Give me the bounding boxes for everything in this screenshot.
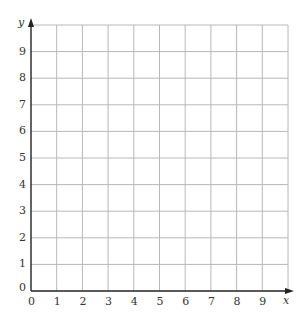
y-tick-label: 8 (19, 72, 26, 83)
y-tick-label: 7 (19, 99, 26, 110)
x-tick-label: 0 (28, 296, 35, 307)
y-tick-label: 1 (19, 258, 26, 269)
y-tick-label: 6 (19, 125, 26, 136)
x-tick-label: 2 (79, 296, 86, 307)
x-tick-label: 9 (259, 296, 266, 307)
y-tick-label: 0 (19, 282, 26, 293)
x-tick-label: 3 (105, 296, 112, 307)
x-axis-label: x (283, 295, 289, 306)
x-tick-label: 7 (208, 296, 215, 307)
y-axis-arrow-icon (28, 18, 34, 27)
y-tick-label: 4 (19, 179, 26, 190)
coordinate-grid (0, 0, 302, 324)
y-axis-label: y (18, 17, 24, 28)
x-tick-label: 1 (54, 296, 61, 307)
y-tick-label: 2 (19, 232, 26, 243)
x-tick-label: 5 (157, 296, 164, 307)
x-tick-label: 4 (131, 296, 138, 307)
y-tick-label: 9 (19, 46, 26, 57)
x-tick-label: 8 (234, 296, 241, 307)
y-tick-label: 3 (19, 205, 26, 216)
x-tick-label: 6 (182, 296, 189, 307)
y-tick-label: 5 (19, 152, 26, 163)
